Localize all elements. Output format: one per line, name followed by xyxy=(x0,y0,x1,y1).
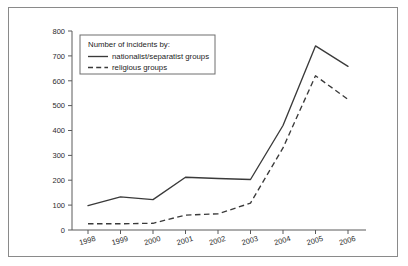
x-tick-labels: 1998 1999 2000 2001 2002 2003 2004 2005 … xyxy=(78,234,357,247)
y-tick-labels: 0 100 200 300 400 500 600 700 800 xyxy=(52,27,65,235)
x-tick-label-1999: 1999 xyxy=(111,234,130,247)
x-tick-label-2004: 2004 xyxy=(273,234,292,247)
y-tick-label-400: 400 xyxy=(52,126,65,135)
y-tick-label-800: 800 xyxy=(52,27,65,36)
legend-label-nationalist-separatist: nationalist/separatist groups xyxy=(112,52,209,61)
x-tick-label-1998: 1998 xyxy=(78,234,97,247)
x-axis: 1998 1999 2000 2001 2002 2003 2004 2005 … xyxy=(72,230,366,247)
legend-title: Number of incidents by: xyxy=(88,40,170,49)
y-tick-label-600: 600 xyxy=(52,77,65,86)
x-tick-marks xyxy=(88,230,348,234)
legend-label-religious: religious groups xyxy=(112,63,167,72)
y-tick-label-700: 700 xyxy=(52,52,65,61)
y-tick-label-100: 100 xyxy=(52,201,65,210)
y-tick-label-500: 500 xyxy=(52,101,65,110)
y-tick-label-200: 200 xyxy=(52,176,65,185)
x-tick-label-2003: 2003 xyxy=(241,234,260,247)
y-axis: 0 100 200 300 400 500 600 700 800 xyxy=(52,27,72,235)
y-tick-label-0: 0 xyxy=(61,226,65,235)
x-tick-label-2005: 2005 xyxy=(306,234,325,247)
x-tick-label-2006: 2006 xyxy=(338,234,357,247)
series-line-religious xyxy=(88,76,348,224)
x-tick-label-2000: 2000 xyxy=(143,234,162,247)
x-tick-label-2001: 2001 xyxy=(176,234,195,247)
y-tick-marks xyxy=(68,31,72,230)
legend: Number of incidents by: nationalist/sepa… xyxy=(80,35,215,74)
incidents-line-chart: 0 100 200 300 400 500 600 700 800 1998 1… xyxy=(0,0,408,266)
y-tick-label-300: 300 xyxy=(52,151,65,160)
x-tick-label-2002: 2002 xyxy=(208,234,227,247)
